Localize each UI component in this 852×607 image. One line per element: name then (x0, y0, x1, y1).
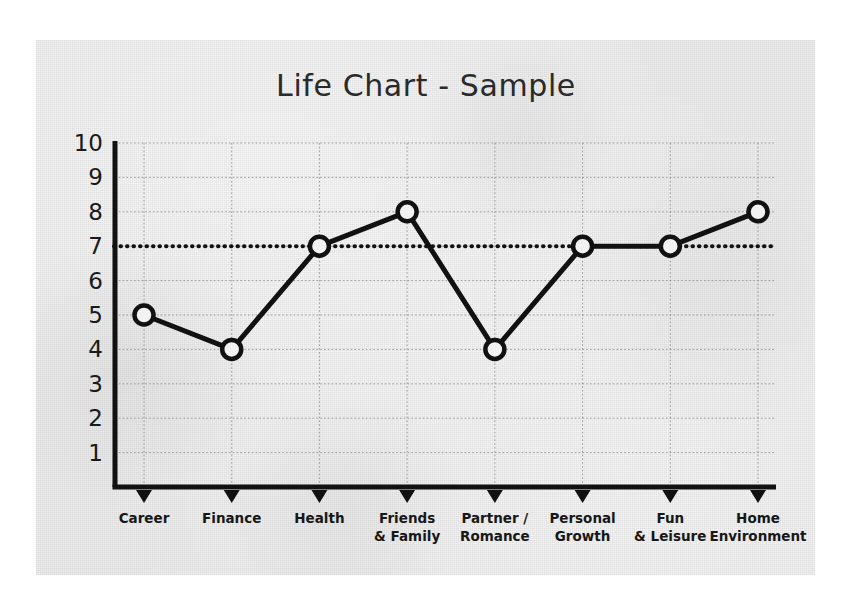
x-axis-category-label: Home Environment (698, 509, 818, 545)
y-axis-tick-label: 10 (63, 130, 103, 156)
data-series (115, 143, 776, 487)
y-axis-tick-label: 9 (63, 164, 103, 190)
data-point-marker (485, 340, 504, 359)
y-axis-tick-label: 5 (63, 302, 103, 328)
data-point-marker (398, 202, 417, 221)
chart-page: Life Chart - Sample 10987654321CareerFin… (0, 0, 852, 607)
data-point-marker (573, 237, 592, 256)
y-axis-tick-label: 6 (63, 268, 103, 294)
y-axis-tick-label: 8 (63, 199, 103, 225)
data-point-marker (222, 340, 241, 359)
y-axis-tick-label: 1 (63, 440, 103, 466)
y-axis-tick-label: 3 (63, 371, 103, 397)
data-point-marker (135, 306, 154, 325)
data-point-marker (749, 202, 768, 221)
plot-area: 10987654321CareerFinanceHealthFriends & … (115, 143, 776, 487)
y-axis-tick-label: 4 (63, 336, 103, 362)
chart-title: Life Chart - Sample (0, 68, 852, 103)
y-axis-tick-label: 2 (63, 405, 103, 431)
data-point-marker (310, 237, 329, 256)
y-axis-tick-label: 7 (63, 233, 103, 259)
data-point-marker (661, 237, 680, 256)
